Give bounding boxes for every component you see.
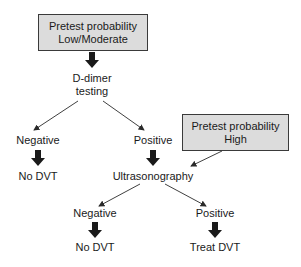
block-arrow-to-treat-dvt [208, 222, 222, 238]
pretest-high-box: Pretest probability High [182, 114, 289, 151]
ddimer-line-2: testing [72, 85, 111, 98]
block-arrow-to-ddimer [85, 52, 99, 68]
arrow-ddimer-to-positive [103, 101, 144, 130]
arrow-high-to-ultrasonography [191, 151, 222, 166]
box-line-2: Low/Moderate [39, 33, 147, 46]
arrow-ddimer-to-negative [34, 101, 78, 130]
ddimer-testing-label: D-dimer testing [72, 72, 111, 98]
us-positive-result: Treat DVT [190, 241, 240, 254]
ddimer-positive-label: Positive [134, 134, 173, 147]
us-negative-label: Negative [73, 207, 116, 220]
us-positive-label: Positive [196, 207, 235, 220]
arrow-us-to-positive [165, 184, 206, 206]
us-negative-result: No DVT [75, 241, 114, 254]
pretest-low-moderate-box: Pretest probability Low/Moderate [38, 14, 148, 51]
ddimer-negative-label: Negative [16, 134, 59, 147]
arrow-us-to-negative [99, 184, 140, 206]
box-line-2: High [183, 133, 288, 146]
ultrasonography-label: Ultrasonography [113, 170, 194, 183]
block-arrow-to-ultrasonography [146, 150, 160, 166]
block-arrow-to-no-dvt-1 [31, 150, 45, 166]
box-line-1: Pretest probability [39, 20, 147, 33]
block-arrow-to-no-dvt-2 [88, 222, 102, 238]
box-line-1: Pretest probability [183, 120, 288, 133]
ddimer-line-1: D-dimer [72, 72, 111, 85]
ddimer-negative-result: No DVT [18, 170, 57, 183]
